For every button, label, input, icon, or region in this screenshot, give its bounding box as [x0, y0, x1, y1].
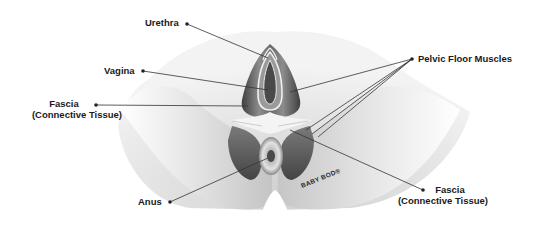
label-fascia-right-line2: (Connective Tissue) [393, 195, 493, 206]
label-fascia-left-line1: Fascia [28, 98, 126, 109]
label-fascia-right: Fascia (Connective Tissue) [393, 184, 493, 206]
label-fascia-right-line1: Fascia [393, 184, 493, 195]
label-fascia-left: Fascia (Connective Tissue) [28, 98, 126, 120]
label-pelvic-floor-muscles: Pelvic Floor Muscles [418, 53, 512, 64]
label-fascia-left-line2: (Connective Tissue) [28, 109, 126, 120]
label-urethra: Urethra [145, 17, 179, 28]
label-anus: Anus [138, 196, 162, 207]
label-vagina: Vagina [104, 65, 135, 76]
